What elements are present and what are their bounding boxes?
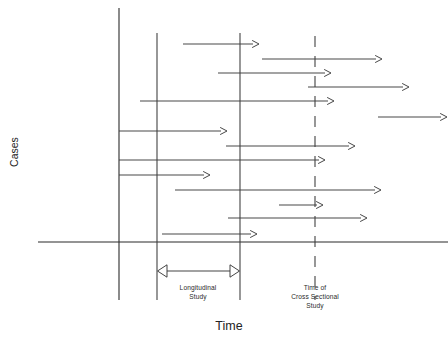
- case-arrow: [228, 215, 367, 222]
- case-arrowhead-icon: [221, 128, 228, 135]
- case-arrow: [119, 172, 210, 179]
- longitudinal-study-label-line1: Longitudinal: [180, 284, 217, 292]
- case-arrowhead-icon: [376, 56, 383, 63]
- case-arrowhead-icon: [328, 98, 335, 105]
- case-arrow: [218, 70, 331, 77]
- case-arrowhead-icon: [253, 41, 260, 48]
- case-arrow: [119, 157, 325, 164]
- case-arrowhead-icon: [361, 215, 368, 222]
- span-arrowhead-right-icon: [230, 265, 240, 277]
- case-arrow: [378, 114, 447, 121]
- case-arrowhead-icon: [204, 172, 211, 179]
- case-arrowhead-icon: [319, 157, 326, 164]
- case-arrow: [119, 128, 227, 135]
- case-arrow: [162, 231, 257, 238]
- case-arrows-group: [119, 41, 447, 238]
- case-arrow: [279, 202, 323, 209]
- case-arrowhead-icon: [403, 84, 410, 91]
- case-arrowhead-icon: [375, 187, 382, 194]
- case-arrowhead-icon: [349, 143, 356, 150]
- cross-sectional-label-line2: Cross Sectional: [291, 293, 339, 300]
- case-arrowhead-icon: [251, 231, 258, 238]
- case-arrow: [226, 143, 355, 150]
- x-axis-title: Time: [215, 319, 242, 333]
- case-arrow: [308, 84, 409, 91]
- case-arrow: [140, 98, 334, 105]
- span-arrowhead-left-icon: [158, 265, 168, 277]
- longitudinal-study-span-marker: [158, 265, 240, 277]
- case-arrowhead-icon: [441, 114, 448, 121]
- case-arrowhead-icon: [325, 70, 332, 77]
- longitudinal-study-label-line2: Study: [189, 293, 207, 301]
- case-arrow: [262, 56, 382, 63]
- figure-container: Longitudinal Study Time of Cross Section…: [0, 0, 448, 342]
- y-axis-title: Cases: [8, 137, 20, 167]
- cross-sectional-label-line1: Time of: [304, 284, 327, 291]
- case-arrow: [183, 41, 259, 48]
- case-arrowhead-icon: [317, 202, 324, 209]
- cross-sectional-label-line3: Study: [306, 302, 324, 310]
- timeline-diagram: Longitudinal Study Time of Cross Section…: [0, 0, 448, 342]
- case-arrow: [175, 187, 381, 194]
